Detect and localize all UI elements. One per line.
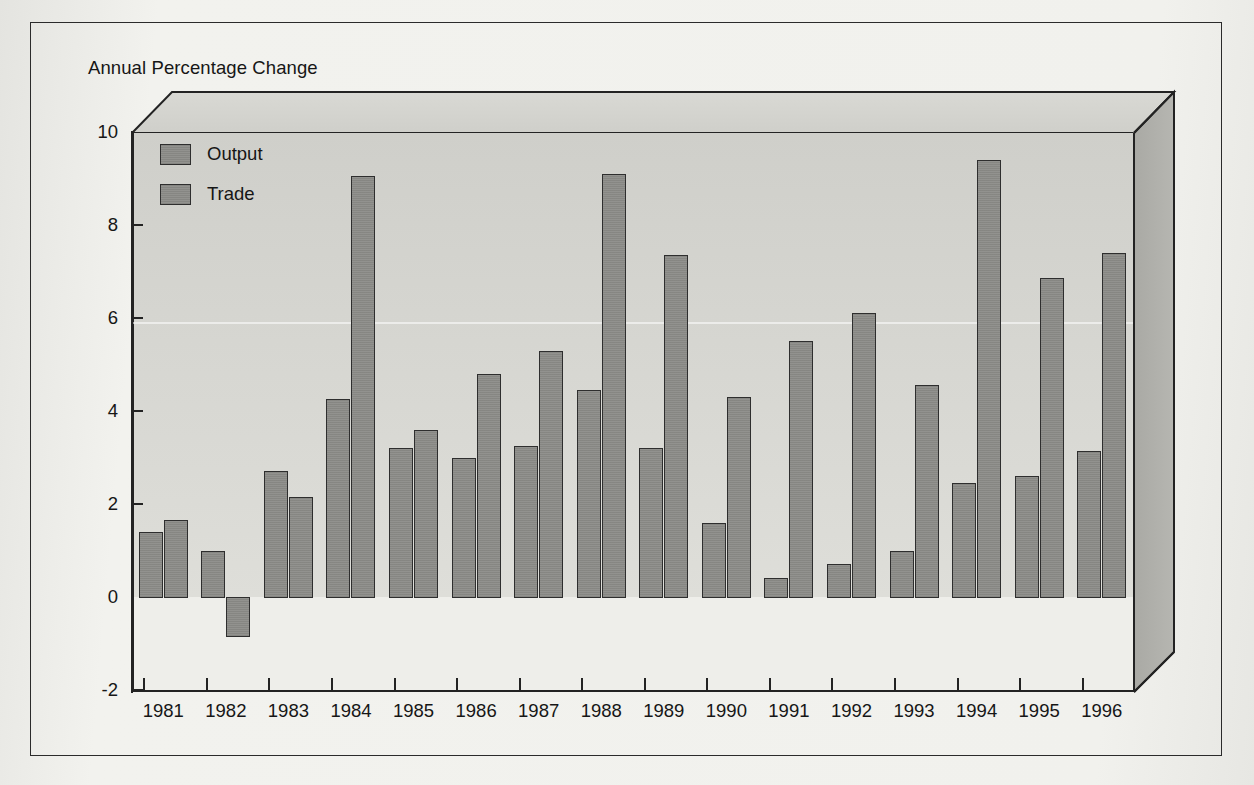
y-axis-tick-label: 10 bbox=[72, 121, 118, 143]
bar-output-1991 bbox=[764, 578, 788, 598]
x-axis-tick-label: 1988 bbox=[581, 700, 622, 722]
x-axis-tick bbox=[831, 678, 833, 691]
bar-output-1986 bbox=[452, 458, 476, 599]
bar-output-1990 bbox=[702, 523, 726, 598]
bar-trade-1989 bbox=[664, 255, 688, 598]
bar-trade-1995 bbox=[1040, 278, 1064, 598]
x-axis-tick bbox=[206, 678, 208, 691]
bar-output-1989 bbox=[639, 448, 663, 598]
bar-trade-1996 bbox=[1102, 253, 1126, 598]
x-axis-tick-label: 1982 bbox=[205, 700, 246, 722]
y-axis-tick-label: 4 bbox=[72, 400, 118, 422]
x-axis-tick-label: 1994 bbox=[956, 700, 997, 722]
legend-item-trade: Trade bbox=[160, 182, 263, 206]
x-axis-tick-label: 1993 bbox=[893, 700, 934, 722]
y-axis-tick bbox=[132, 317, 143, 319]
y-axis-tick-label: 8 bbox=[72, 214, 118, 236]
bar-trade-1985 bbox=[414, 430, 438, 598]
bar-output-1981 bbox=[139, 532, 163, 598]
x-axis-tick-label: 1985 bbox=[393, 700, 434, 722]
x-axis-tick bbox=[268, 678, 270, 691]
chart-legend: Output Trade bbox=[160, 142, 263, 222]
y-axis-labels: -20246810 bbox=[72, 0, 118, 785]
x-axis-tick bbox=[706, 678, 708, 691]
bar-trade-1992 bbox=[852, 313, 876, 598]
x-axis-tick bbox=[394, 678, 396, 691]
bar-trade-1990 bbox=[727, 397, 751, 598]
bar-trade-1986 bbox=[477, 374, 501, 598]
y-axis-tick-label: -2 bbox=[72, 679, 118, 701]
x-axis-tick-label: 1984 bbox=[330, 700, 371, 722]
y-axis-tick-label: 0 bbox=[72, 586, 118, 608]
bar-trade-1984 bbox=[351, 176, 375, 598]
x-axis-tick bbox=[581, 678, 583, 691]
x-axis-tick-label: 1983 bbox=[268, 700, 309, 722]
plot-right-wall bbox=[1133, 92, 1174, 692]
x-axis-tick-label: 1992 bbox=[831, 700, 872, 722]
y-axis-tick bbox=[132, 503, 143, 505]
y-axis-tick-label: 6 bbox=[72, 307, 118, 329]
y-axis-tick-label: 2 bbox=[72, 493, 118, 515]
bar-trade-1994 bbox=[977, 160, 1001, 598]
bar-output-1995 bbox=[1015, 476, 1039, 598]
legend-label-trade: Trade bbox=[207, 183, 255, 205]
bar-output-1993 bbox=[890, 551, 914, 599]
bar-output-1982 bbox=[201, 551, 225, 599]
x-axis-tick bbox=[644, 678, 646, 691]
y-axis-line bbox=[131, 131, 133, 693]
plot-area-below-zero bbox=[132, 597, 1133, 692]
x-axis-tick-label: 1981 bbox=[143, 700, 184, 722]
legend-label-output: Output bbox=[207, 143, 263, 165]
bar-output-1988 bbox=[577, 390, 601, 598]
bar-output-1984 bbox=[326, 399, 350, 598]
bar-trade-1981 bbox=[164, 520, 188, 598]
x-axis-tick bbox=[456, 678, 458, 691]
plot-top-wall bbox=[132, 92, 1174, 133]
bar-trade-1988 bbox=[602, 174, 626, 598]
bar-output-1996 bbox=[1077, 451, 1101, 598]
y-axis-tick bbox=[132, 410, 143, 412]
bar-trade-1983 bbox=[289, 497, 313, 598]
bar-output-1987 bbox=[514, 446, 538, 598]
x-axis-line bbox=[132, 690, 1134, 692]
x-axis-tick bbox=[331, 678, 333, 691]
x-axis-tick-label: 1996 bbox=[1081, 700, 1122, 722]
x-axis-tick-label: 1991 bbox=[768, 700, 809, 722]
y-axis-tick bbox=[132, 689, 143, 691]
x-axis-tick bbox=[769, 678, 771, 691]
bar-trade-1987 bbox=[539, 351, 563, 598]
bar-output-1983 bbox=[264, 471, 288, 598]
legend-swatch-trade bbox=[160, 184, 191, 205]
x-axis-tick bbox=[957, 678, 959, 691]
x-axis-tick bbox=[143, 678, 145, 691]
bar-output-1992 bbox=[827, 564, 851, 598]
x-axis-tick bbox=[894, 678, 896, 691]
legend-swatch-output bbox=[160, 144, 191, 165]
x-axis-tick-label: 1989 bbox=[643, 700, 684, 722]
figure-root: Annual Percentage Change Output Trade -2… bbox=[0, 0, 1254, 785]
bar-trade-1993 bbox=[915, 385, 939, 598]
x-axis-tick bbox=[519, 678, 521, 691]
x-axis-tick-label: 1987 bbox=[518, 700, 559, 722]
x-axis-tick bbox=[1019, 678, 1021, 691]
bar-output-1994 bbox=[952, 483, 976, 598]
x-axis-tick-label: 1986 bbox=[456, 700, 497, 722]
bar-trade-1982 bbox=[226, 597, 250, 637]
x-axis-tick bbox=[1082, 678, 1084, 691]
chart-title: Annual Percentage Change bbox=[88, 57, 318, 79]
y-axis-tick bbox=[132, 224, 143, 226]
x-axis-tick-label: 1995 bbox=[1019, 700, 1060, 722]
bar-output-1985 bbox=[389, 448, 413, 598]
legend-item-output: Output bbox=[160, 142, 263, 166]
x-axis-tick-label: 1990 bbox=[706, 700, 747, 722]
bar-trade-1991 bbox=[789, 341, 813, 598]
